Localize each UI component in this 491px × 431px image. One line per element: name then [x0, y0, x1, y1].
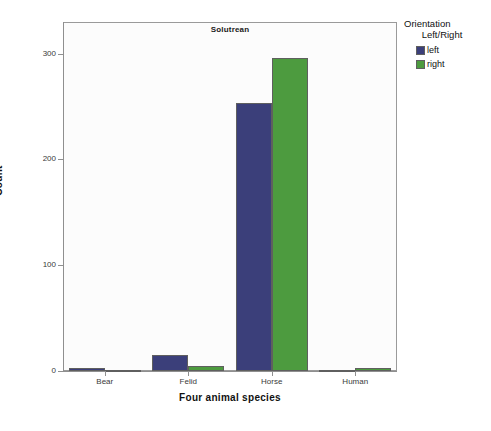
legend-label-right: right — [427, 59, 445, 69]
x-axis-tick-mark — [272, 371, 273, 376]
y-axis-tick-label: 0 — [52, 366, 56, 375]
bar-felid-right — [188, 366, 224, 371]
legend-item-right[interactable]: right — [416, 58, 490, 70]
y-axis-tick-mark — [58, 371, 63, 372]
bar-bear-right — [105, 370, 141, 372]
legend-title-line1: Orientation — [404, 18, 490, 29]
chart-figure: Solutrean 0100200300 Count BearFelidHors… — [0, 0, 491, 431]
y-axis-line — [63, 22, 64, 372]
x-axis-tick-label: Horse — [261, 377, 282, 386]
legend-label-left: left — [427, 45, 439, 55]
bar-bear-left — [69, 368, 105, 371]
chart-title: Solutrean — [63, 25, 397, 34]
x-axis-tick-label: Felid — [180, 377, 197, 386]
bar-felid-left — [152, 355, 188, 371]
legend-item-left[interactable]: left — [416, 44, 490, 56]
plot-frame — [63, 22, 397, 371]
y-axis-tick-mark — [58, 159, 63, 160]
x-axis-title: Four animal species — [63, 392, 397, 403]
bar-horse-left — [236, 103, 272, 371]
legend-swatch-left — [416, 46, 425, 55]
x-axis-tick-label: Bear — [96, 377, 113, 386]
x-axis-tick-mark — [188, 371, 189, 376]
y-axis-tick-mark — [58, 265, 63, 266]
legend-items: leftright — [416, 44, 490, 70]
legend-title: Orientation Left/Right — [404, 18, 490, 40]
y-axis-tick-label: 200 — [43, 154, 56, 163]
x-axis-tick-mark — [105, 371, 106, 376]
legend-title-line2: Left/Right — [404, 29, 490, 40]
y-axis-tick-label: 300 — [43, 49, 56, 58]
y-axis-tick-label: 100 — [43, 260, 56, 269]
bar-human-right — [355, 368, 391, 371]
x-axis-tick-mark — [355, 371, 356, 376]
y-axis-title: Count — [0, 165, 4, 195]
bar-human-left — [319, 370, 355, 372]
legend: Orientation Left/Right leftright — [404, 18, 490, 72]
y-axis-tick-mark — [58, 54, 63, 55]
legend-swatch-right — [416, 60, 425, 69]
bar-horse-right — [272, 58, 308, 371]
x-axis-tick-label: Human — [342, 377, 368, 386]
